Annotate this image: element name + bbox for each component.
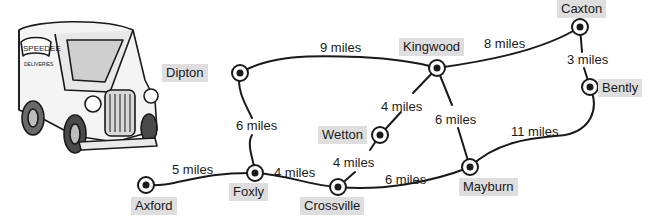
delivery-van-illustration: SPEEDEE DELIVERIES: [5, 10, 165, 160]
town-label-foxly: Foxly: [229, 183, 268, 201]
van-sign-subtitle: DELIVERIES: [24, 61, 54, 67]
town-label-wetton: Wetton: [318, 126, 367, 144]
distance-label: 4 miles: [274, 165, 315, 180]
distance-label: 11 miles: [511, 124, 558, 139]
distance-label: 9 miles: [320, 40, 361, 55]
distance-label: 6 miles: [435, 112, 476, 127]
town-label-dipton: Dipton: [162, 64, 208, 82]
town-label-caxton: Caxton: [557, 0, 606, 18]
van-sign-name: SPEEDEE: [23, 44, 61, 53]
marker-dipton[interactable]: [232, 65, 248, 81]
distance-label: 3 miles: [567, 52, 608, 67]
marker-bently[interactable]: [582, 79, 598, 95]
road-dipton-kingwood: [240, 56, 437, 73]
town-label-bently: Bently: [598, 79, 642, 97]
distance-label: 5 miles: [172, 162, 213, 177]
marker-kingwood[interactable]: [429, 60, 445, 76]
marker-mayburn[interactable]: [462, 159, 478, 175]
distance-label: 6 miles: [236, 118, 277, 133]
town-label-axford: Axford: [131, 197, 177, 215]
marker-crossville[interactable]: [330, 179, 346, 195]
distance-label: 6 miles: [385, 172, 426, 187]
distance-label: 8 miles: [484, 36, 525, 51]
town-label-crossville: Crossville: [300, 197, 364, 215]
marker-caxton[interactable]: [572, 19, 588, 35]
marker-wetton[interactable]: [372, 127, 388, 143]
town-label-mayburn: Mayburn: [459, 178, 518, 196]
distance-label: 4 miles: [333, 155, 374, 170]
distance-label: 4 miles: [381, 99, 422, 114]
marker-axford[interactable]: [138, 177, 154, 193]
marker-foxly[interactable]: [247, 165, 263, 181]
town-label-kingwood: Kingwood: [399, 38, 464, 56]
